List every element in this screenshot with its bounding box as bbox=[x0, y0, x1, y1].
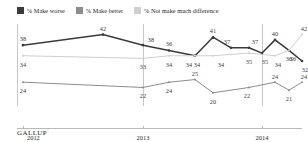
data-label: 42 bbox=[301, 24, 307, 31]
legend-label: % Make better bbox=[86, 7, 123, 14]
data-point bbox=[168, 55, 170, 57]
data-label: 36 bbox=[166, 40, 172, 47]
data-label: 20 bbox=[210, 97, 216, 104]
data-point bbox=[248, 86, 250, 88]
gallup-line-chart: % Make worse % Make better % Not make mu… bbox=[0, 0, 308, 142]
x-axis-label-2014: 2014 bbox=[256, 134, 269, 142]
data-label: 34 bbox=[20, 60, 26, 67]
data-point bbox=[230, 47, 233, 50]
x-axis-line bbox=[17, 128, 302, 129]
data-point bbox=[168, 49, 171, 52]
data-point bbox=[22, 44, 25, 47]
series-line bbox=[23, 35, 302, 59]
data-point bbox=[301, 60, 304, 63]
plot-area: 2012 2013 2014 3842383634413737354036322… bbox=[17, 24, 302, 106]
data-label: 37 bbox=[252, 37, 258, 44]
data-point bbox=[248, 47, 251, 50]
data-point bbox=[212, 92, 214, 94]
data-point bbox=[248, 52, 250, 54]
data-label: 35 bbox=[246, 58, 252, 65]
data-label: 24 bbox=[301, 73, 307, 80]
x-tick-2013 bbox=[143, 126, 144, 129]
series-lines bbox=[17, 24, 302, 106]
source-brand-text: GALLUP bbox=[17, 129, 47, 137]
data-point bbox=[274, 55, 276, 57]
data-point bbox=[301, 34, 303, 36]
legend-label: % Not make much difference bbox=[144, 7, 218, 14]
data-point bbox=[301, 81, 303, 83]
data-label: 37 bbox=[224, 37, 230, 44]
legend-swatch-icon bbox=[17, 7, 24, 14]
data-label: 34 bbox=[275, 60, 281, 67]
data-label: 34 bbox=[186, 60, 192, 67]
data-label: 21 bbox=[286, 95, 292, 102]
source-brand: GALLUP’ bbox=[17, 126, 49, 138]
legend-label: % Make worse bbox=[27, 7, 65, 14]
data-label: 33 bbox=[140, 63, 146, 70]
data-point bbox=[288, 49, 290, 51]
data-point bbox=[288, 89, 290, 91]
data-point bbox=[22, 55, 24, 57]
data-point bbox=[142, 44, 145, 47]
data-point bbox=[194, 55, 196, 57]
data-label: 24 bbox=[166, 87, 172, 94]
data-label: 34 bbox=[218, 60, 224, 67]
legend-item-make-worse[interactable]: % Make worse bbox=[17, 7, 65, 14]
legend-item-not-much-difference[interactable]: % Not make much difference bbox=[134, 7, 218, 14]
data-point bbox=[274, 81, 276, 83]
x-tick-2014 bbox=[262, 126, 263, 129]
data-label: 24 bbox=[272, 73, 278, 80]
series-line bbox=[23, 80, 302, 93]
data-point bbox=[102, 33, 105, 36]
data-label: 22 bbox=[244, 92, 250, 99]
data-label: 41 bbox=[210, 27, 216, 34]
data-label: 42 bbox=[100, 24, 106, 31]
data-label: 38 bbox=[148, 36, 154, 43]
legend-item-make-better[interactable]: % Make better bbox=[76, 7, 123, 14]
data-label: 36 bbox=[286, 55, 292, 62]
data-point bbox=[142, 57, 144, 59]
data-label: 34 bbox=[194, 60, 200, 67]
data-label: 32 bbox=[302, 66, 308, 73]
data-point bbox=[274, 39, 277, 42]
data-point bbox=[212, 36, 215, 39]
data-label: 40 bbox=[272, 29, 278, 36]
chart-legend: % Make worse % Make better % Not make mu… bbox=[17, 4, 302, 16]
legend-swatch-icon bbox=[76, 7, 83, 14]
data-label: 38 bbox=[20, 35, 26, 42]
data-label: 25 bbox=[192, 69, 198, 76]
legend-swatch-icon bbox=[134, 7, 141, 14]
data-point bbox=[22, 81, 24, 83]
data-point bbox=[168, 81, 170, 83]
data-point bbox=[194, 79, 196, 81]
source-trademark-mark: ’ bbox=[47, 128, 49, 133]
data-label: 22 bbox=[140, 92, 146, 99]
data-label: 34 bbox=[166, 60, 172, 67]
x-axis-label-2013: 2013 bbox=[137, 134, 150, 142]
data-point bbox=[212, 55, 214, 57]
data-label: 24 bbox=[20, 87, 26, 94]
data-point bbox=[142, 86, 144, 88]
data-label: 35 bbox=[262, 58, 268, 65]
